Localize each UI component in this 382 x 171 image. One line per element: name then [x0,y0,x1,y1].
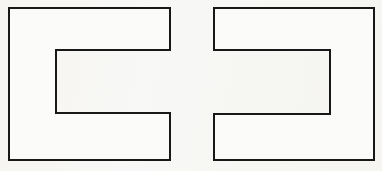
shapes-illustration [0,0,382,171]
figure-canvas [0,0,382,171]
right-e-shape [214,8,374,160]
left-e-shape-outline [9,8,170,160]
left-e-shape [9,8,170,160]
right-e-shape-outline [214,8,374,160]
